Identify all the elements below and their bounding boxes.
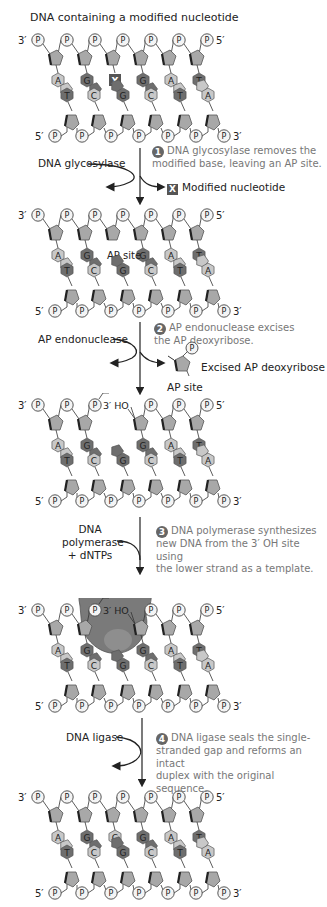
enzyme-label-polymerase: DNA polymerase + dNTPs <box>62 523 118 562</box>
svg-text:P: P <box>190 344 195 353</box>
product-modified-nucleotide: XModified nucleotide <box>167 181 285 195</box>
modified-base-icon: X <box>167 184 178 195</box>
phosphate-icon: P <box>184 340 200 356</box>
step-text-line: stranded gap and reforms an intact <box>156 745 302 769</box>
step-text-line: DNA ligase seals the single- <box>171 732 310 743</box>
step-number-badge: 2 <box>154 323 166 335</box>
step-text-line: modified base, leaving an AP site. <box>152 158 322 169</box>
ap-site-label: AP site <box>167 381 203 394</box>
step-2-description: 2AP endonuclease excises the AP deoxyrib… <box>154 322 294 348</box>
step-3-description: 3DNA polymerase synthesizes new DNA from… <box>156 525 327 576</box>
enzyme-line: + dNTPs <box>68 549 113 561</box>
step-text-line: DNA polymerase synthesizes <box>171 525 317 536</box>
step-4-description: 4DNA ligase seals the single- stranded g… <box>156 732 327 795</box>
enzyme-label-ap-endonuclease: AP endonuclease <box>38 333 128 346</box>
step-number-badge: 3 <box>156 526 168 538</box>
step-text-line: new DNA from the 3′ OH site using <box>156 538 300 562</box>
enzyme-line: DNA <box>78 523 101 535</box>
step-number-badge: 4 <box>156 733 168 745</box>
step-text-line: the lower strand as a template. <box>156 563 314 574</box>
step-text-line: the AP deoxyribose. <box>154 335 254 346</box>
step-number-badge: 1 <box>152 146 164 158</box>
step-1-description: 1DNA glycosylase removes the modified ba… <box>152 145 322 171</box>
enzyme-line: polymerase <box>62 536 124 548</box>
product-excised-deoxyribose: Excised AP deoxyribose <box>201 361 325 374</box>
step-text-line: duplex with the original sequence. <box>156 770 274 794</box>
step-text-line: AP endonuclease excises <box>169 322 294 333</box>
enzyme-label-glycosylase: DNA glycosylase <box>38 157 125 170</box>
enzyme-label-ligase: DNA ligase <box>66 731 123 744</box>
product-label: Modified nucleotide <box>182 181 285 193</box>
step-text-line: DNA glycosylase removes the <box>167 145 316 156</box>
